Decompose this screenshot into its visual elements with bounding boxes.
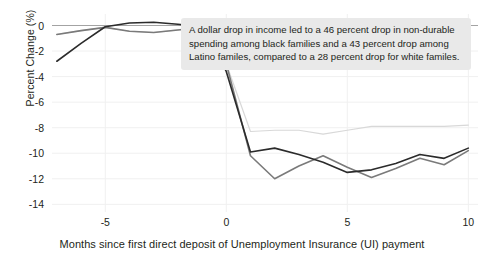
annotation-line-3: Latino familes, compared to a 28 percent… — [189, 50, 464, 64]
annotation-callout: A dollar drop in income led to a 46 perc… — [181, 18, 471, 70]
y-tick-label: -6 — [10, 96, 44, 108]
x-axis-title: Months since first direct deposit of Une… — [0, 238, 484, 250]
y-tick-label: -14 — [10, 198, 44, 210]
y-tick-label: -12 — [10, 173, 44, 185]
y-tick-label: -10 — [10, 147, 44, 159]
x-tick-label: 10 — [462, 216, 474, 228]
y-tick-label: -4 — [10, 71, 44, 83]
annotation-line-2: spending among black families and a 43 p… — [189, 37, 464, 51]
y-tick-labels: 0-2-4-6-8-10-12-14 — [10, 0, 44, 267]
x-tick-label: 0 — [223, 216, 229, 228]
y-tick-label: -2 — [10, 45, 44, 57]
y-tick-label: 0 — [10, 20, 44, 32]
x-tick-label: -5 — [101, 216, 110, 228]
annotation-line-1: A dollar drop in income led to a 46 perc… — [189, 23, 464, 37]
chart-container: Percent Change (%) 0-2-4-6-8-10-12-14 -5… — [0, 0, 484, 267]
x-tick-label: 5 — [344, 216, 350, 228]
y-tick-label: -8 — [10, 122, 44, 134]
